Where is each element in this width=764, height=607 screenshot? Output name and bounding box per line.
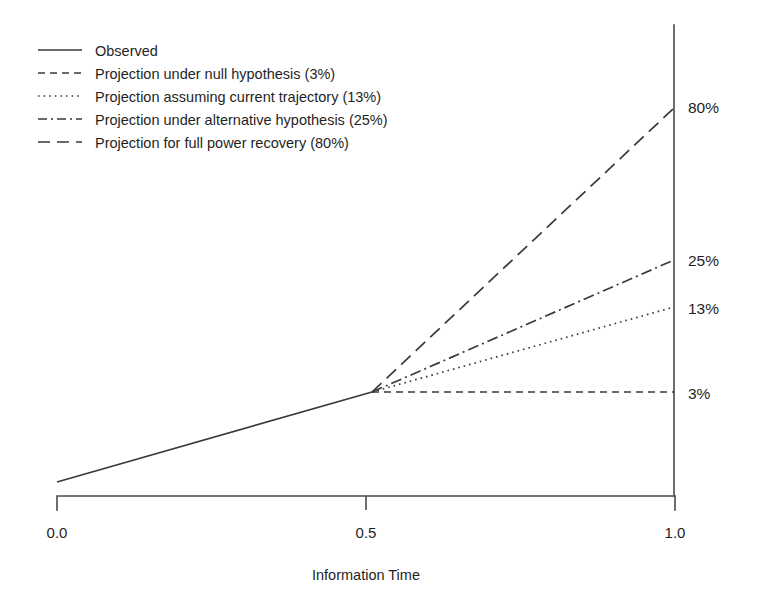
legend-label-full-power-recovery: Projection for full power recovery (80%)	[95, 135, 349, 151]
legend-item-full-power-recovery: Projection for full power recovery (80%)	[38, 135, 349, 151]
value-label-13: 13%	[688, 300, 719, 317]
legend-label-observed: Observed	[95, 43, 158, 59]
right-axis-value-labels: 80% 25% 13% 3%	[688, 99, 719, 402]
value-label-3: 3%	[688, 385, 711, 402]
legend-label-current-trajectory: Projection assuming current trajectory (…	[95, 89, 381, 105]
x-axis-title: Information Time	[312, 567, 420, 583]
series-group	[57, 108, 674, 482]
x-tick-label-2: 1.0	[665, 524, 686, 541]
chart-container: 80% 25% 13% 3% 0.0 0.5 1.0 Information T…	[0, 0, 764, 607]
legend: Observed Projection under null hypothesi…	[38, 43, 388, 151]
projection-line-chart: 80% 25% 13% 3% 0.0 0.5 1.0 Information T…	[0, 0, 764, 607]
legend-item-current-trajectory: Projection assuming current trajectory (…	[38, 89, 381, 105]
series-observed	[57, 392, 372, 482]
legend-label-alternative-hypothesis: Projection under alternative hypothesis …	[95, 112, 388, 128]
legend-item-alternative-hypothesis: Projection under alternative hypothesis …	[38, 112, 388, 128]
series-alternative-hypothesis-25	[372, 260, 674, 392]
value-label-80: 80%	[688, 99, 719, 116]
legend-item-observed: Observed	[38, 43, 158, 59]
x-axis-tick-labels: 0.0 0.5 1.0	[47, 524, 686, 541]
value-label-25: 25%	[688, 252, 719, 269]
x-tick-label-0: 0.0	[47, 524, 68, 541]
x-tick-label-1: 0.5	[356, 524, 377, 541]
legend-item-null-hypothesis: Projection under null hypothesis (3%)	[38, 66, 335, 82]
legend-label-null-hypothesis: Projection under null hypothesis (3%)	[95, 66, 335, 82]
